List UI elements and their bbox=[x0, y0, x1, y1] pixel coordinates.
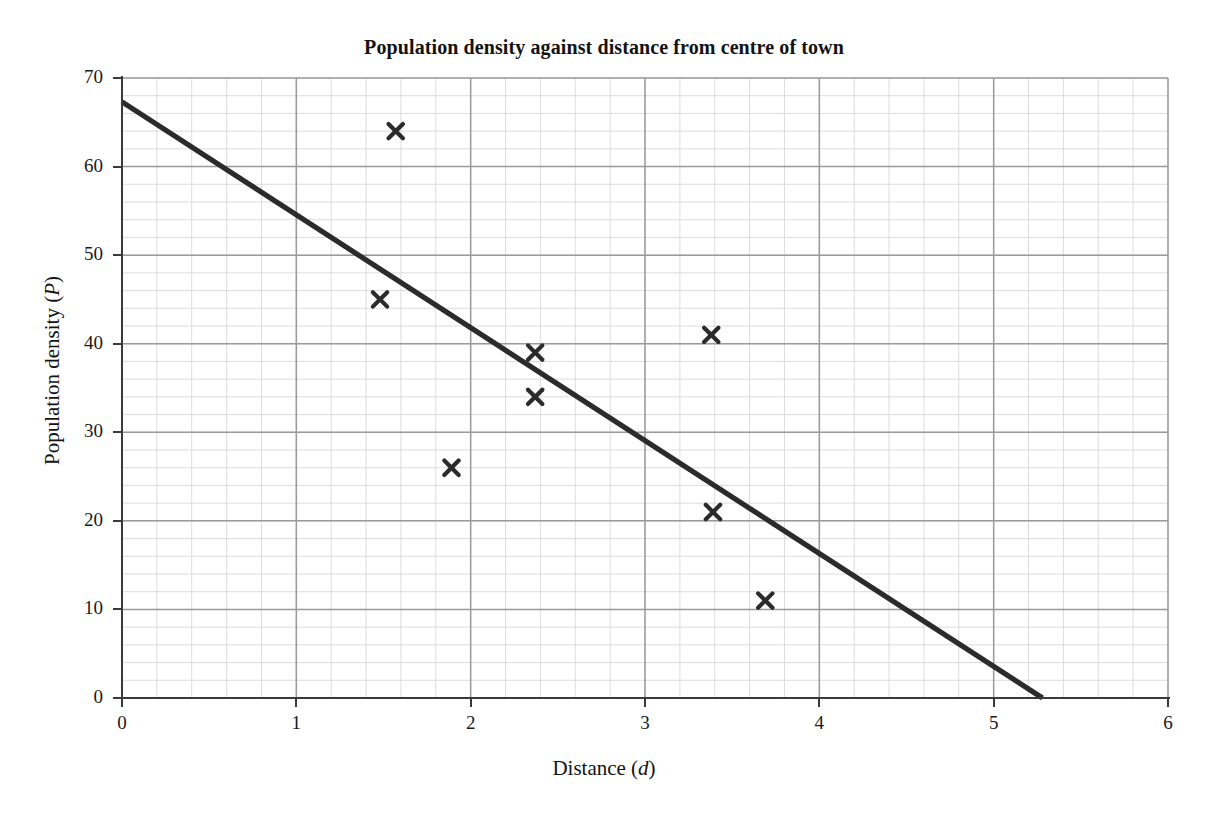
x-axis-tick bbox=[818, 698, 820, 707]
x-axis-tick-label: 2 bbox=[441, 712, 501, 734]
data-point-marker bbox=[389, 124, 403, 138]
y-axis-tick bbox=[113, 254, 122, 256]
data-point-marker bbox=[444, 461, 458, 475]
x-axis-tick bbox=[295, 698, 297, 707]
x-axis-title: Distance (d) bbox=[0, 756, 1208, 781]
y-axis-title-symbol: P bbox=[40, 283, 64, 296]
x-axis-tick-label: 5 bbox=[964, 712, 1024, 734]
x-axis-tick-label: 6 bbox=[1138, 712, 1198, 734]
data-point-markers bbox=[373, 124, 773, 608]
chart-title: Population density against distance from… bbox=[0, 36, 1208, 59]
y-axis-tick bbox=[113, 77, 122, 79]
x-axis-tick-label: 3 bbox=[615, 712, 675, 734]
y-axis-tick bbox=[113, 520, 122, 522]
y-axis-tick bbox=[113, 343, 122, 345]
y-axis-title-paren-close: ) bbox=[40, 276, 64, 283]
data-point-marker bbox=[373, 292, 387, 306]
x-axis-title-text: Distance bbox=[552, 756, 625, 780]
x-axis-title-symbol: d bbox=[638, 756, 649, 780]
y-axis-tick bbox=[113, 431, 122, 433]
data-point-marker bbox=[704, 328, 718, 342]
x-axis-tick-label: 4 bbox=[789, 712, 849, 734]
y-axis-title-text: Population density bbox=[40, 308, 64, 465]
x-axis-tick bbox=[993, 698, 995, 707]
plot-area bbox=[122, 78, 1168, 698]
x-axis-tick bbox=[470, 698, 472, 707]
line-of-best-fit bbox=[122, 102, 1042, 698]
data-layer bbox=[122, 78, 1168, 698]
data-point-marker bbox=[528, 390, 542, 404]
data-point-marker bbox=[706, 505, 720, 519]
y-axis-title: Population density (P) bbox=[40, 91, 65, 651]
y-axis-title-paren-open: ( bbox=[40, 296, 64, 308]
x-axis-tick bbox=[644, 698, 646, 707]
y-axis-tick bbox=[113, 608, 122, 610]
x-axis-title-paren-open: ( bbox=[626, 756, 638, 780]
chart-figure: Population density against distance from… bbox=[0, 0, 1208, 818]
x-axis-tick bbox=[121, 698, 123, 707]
data-point-marker bbox=[758, 593, 772, 607]
data-point-marker bbox=[528, 345, 542, 359]
y-axis-tick bbox=[113, 166, 122, 168]
x-axis-title-paren-close: ) bbox=[649, 756, 656, 780]
y-axis-line bbox=[121, 76, 123, 700]
x-axis-tick-label: 1 bbox=[266, 712, 326, 734]
x-axis-tick bbox=[1167, 698, 1169, 707]
y-axis-tick-label: 70 bbox=[43, 66, 103, 88]
y-axis-tick-label: 0 bbox=[43, 686, 103, 708]
x-axis-tick-label: 0 bbox=[92, 712, 152, 734]
